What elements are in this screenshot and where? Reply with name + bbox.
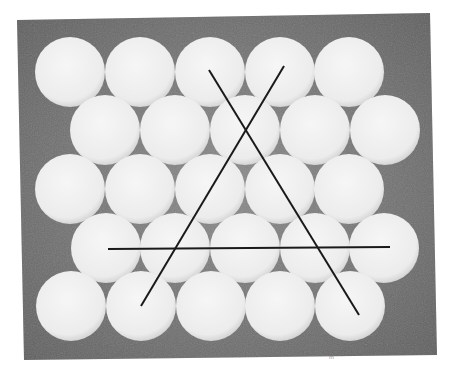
disc [176, 271, 246, 341]
disc [314, 154, 384, 224]
disc-grid [35, 37, 420, 341]
packed-discs-photo [0, 0, 451, 370]
disc [350, 95, 420, 165]
disc [105, 37, 175, 107]
disc [36, 271, 106, 341]
disc [140, 95, 210, 165]
disc [245, 154, 315, 224]
disc [105, 154, 175, 224]
disc [315, 271, 385, 341]
disc [70, 95, 140, 165]
disc [245, 271, 315, 341]
disc [35, 37, 105, 107]
caption-mark: m [329, 354, 334, 360]
disc [35, 154, 105, 224]
disc [280, 95, 350, 165]
